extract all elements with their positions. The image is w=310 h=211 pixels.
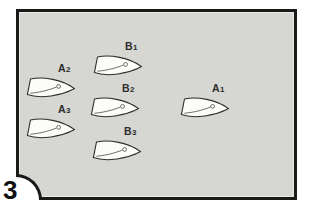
boat-label-digit: 1 [133, 43, 138, 52]
boat-label-letter: B [125, 40, 133, 52]
boat-label-digit: 2 [130, 85, 135, 94]
boat-label-letter: B [122, 82, 130, 94]
boat-label-letter: A [212, 82, 220, 94]
figure-panel: A1 A2 A3 B1 B2 [16, 9, 297, 200]
boat-icon [92, 139, 142, 163]
corner-notch [16, 174, 42, 200]
boat-group-a2: A2 [26, 63, 78, 101]
boat-label-a1: A1 [212, 83, 225, 95]
boat-label-digit: 3 [132, 128, 137, 137]
boat-icon [180, 96, 230, 120]
boat-label-b2: B2 [122, 83, 135, 95]
boat-label-letter: A [58, 103, 66, 115]
boat-label-b3: B3 [124, 126, 137, 138]
boat-group-b3: B3 [92, 126, 144, 164]
boat-label-letter: B [124, 125, 132, 137]
boat-label-a3: A3 [58, 104, 71, 116]
boat-group-b1: B1 [93, 41, 145, 79]
boat-icon [93, 54, 143, 78]
boat-icon [90, 96, 140, 120]
boat-label-letter: A [58, 62, 66, 74]
boat-group-a3: A3 [26, 104, 78, 142]
boat-icon [26, 117, 76, 141]
boat-label-digit: 1 [220, 85, 225, 94]
boat-label-b1: B1 [125, 41, 138, 53]
boat-group-b2: B2 [90, 83, 142, 121]
boat-icon [26, 76, 76, 100]
boat-group-a1: A1 [180, 83, 232, 121]
figure-number: 3 [3, 177, 17, 203]
boat-label-digit: 3 [66, 106, 71, 115]
boat-label-digit: 2 [66, 65, 71, 74]
boat-label-a2: A2 [58, 63, 71, 75]
